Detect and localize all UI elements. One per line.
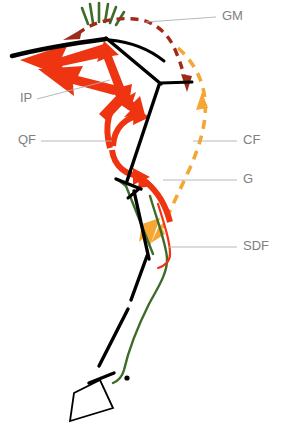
label-group-qf: QF [18, 132, 112, 147]
cf-dashed-arc [151, 48, 208, 243]
leader-gm [146, 17, 216, 22]
bone-ischium [161, 82, 192, 83]
label-group-cf: CF [193, 132, 260, 147]
bone-metatarsus-lower [99, 309, 128, 366]
bone-toe-outline [70, 380, 113, 421]
cf-arrowhead-upper [196, 92, 208, 110]
label-cf: CF [243, 132, 260, 147]
hindlimb-diagram: GM IP QF CF G SDF [0, 0, 281, 437]
bone-ilium-bar [110, 40, 164, 61]
gm-arrowhead-left [63, 29, 82, 40]
label-g: G [243, 171, 253, 186]
label-sdf: SDF [243, 238, 269, 253]
label-qf: QF [18, 132, 36, 147]
joint-dot [124, 375, 129, 380]
label-group-sdf: SDF [168, 238, 269, 253]
g-curved-arrow [138, 172, 170, 222]
label-group-gm: GM [146, 8, 243, 23]
label-ip: IP [20, 90, 32, 105]
label-gm: GM [222, 8, 243, 23]
bone-metatarsus-upper [131, 256, 147, 300]
